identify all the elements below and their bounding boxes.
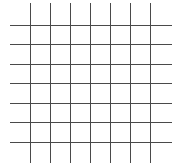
grid-diagram [0,0,184,164]
